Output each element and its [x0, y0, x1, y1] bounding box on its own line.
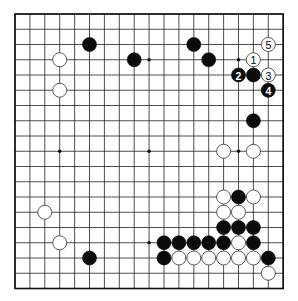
white-stone-icon: [187, 251, 201, 265]
black-stone: [157, 251, 171, 265]
black-stone: [246, 68, 260, 82]
black-stone: [232, 190, 246, 204]
move-number: 4: [265, 85, 271, 97]
black-stone: [217, 236, 231, 250]
white-stone: [217, 205, 231, 219]
black-stone: [172, 236, 186, 250]
black-stone: [232, 221, 246, 235]
black-stone: [187, 236, 201, 250]
black-stone-icon: [246, 114, 260, 128]
go-board-canvas[interactable]: 51234: [0, 0, 298, 301]
black-stone-icon: [246, 221, 260, 235]
black-stone-move-4: 4: [261, 83, 275, 97]
white-stone: [187, 251, 201, 265]
move-number: 3: [265, 70, 271, 82]
white-stone-icon: [217, 190, 231, 204]
black-stone-icon: [83, 251, 97, 265]
black-stone: [83, 251, 97, 265]
white-stone-icon: [232, 205, 246, 219]
black-stone: [202, 53, 216, 67]
white-stone-icon: [53, 236, 67, 250]
white-stone-move-5: 5: [261, 38, 275, 52]
white-stone-icon: [246, 144, 260, 158]
white-stone-icon: [38, 205, 52, 219]
black-stone-icon: [187, 38, 201, 52]
move-number: 5: [265, 39, 271, 51]
star-point-icon: [58, 149, 62, 153]
black-stone-icon: [232, 190, 246, 204]
black-stone-icon: [172, 236, 186, 250]
white-stone: [217, 190, 231, 204]
white-stone: [172, 251, 186, 265]
stones-layer: 51234: [38, 38, 275, 281]
black-stone: [157, 236, 171, 250]
black-stone-icon: [187, 236, 201, 250]
white-stone-move-1: 1: [246, 53, 260, 67]
white-stone-icon: [246, 190, 260, 204]
star-point-icon: [147, 149, 151, 153]
white-stone: [217, 144, 231, 158]
black-stone-icon: [246, 236, 260, 250]
black-stone-icon: [217, 221, 231, 235]
white-stone: [232, 251, 246, 265]
black-stone: [246, 236, 260, 250]
white-stone-icon: [246, 251, 260, 265]
go-board[interactable]: 51234: [0, 0, 298, 301]
white-stone: [261, 266, 275, 280]
black-stone-icon: [232, 221, 246, 235]
white-stone: [202, 251, 216, 265]
star-point-icon: [147, 241, 151, 245]
black-stone-icon: [202, 236, 216, 250]
black-stone-icon: [202, 53, 216, 67]
white-stone: [38, 205, 52, 219]
black-stone: [261, 251, 275, 265]
white-stone: [232, 205, 246, 219]
white-stone-move-3: 3: [261, 68, 275, 82]
black-stone-icon: [261, 251, 275, 265]
star-point-icon: [237, 58, 241, 62]
black-stone-icon: [246, 68, 260, 82]
black-stone: [202, 236, 216, 250]
white-stone-icon: [217, 144, 231, 158]
white-stone: [53, 83, 67, 97]
white-stone-icon: [232, 251, 246, 265]
move-number: 1: [250, 54, 256, 66]
white-stone-icon: [217, 251, 231, 265]
black-stone: [83, 38, 97, 52]
white-stone: [246, 190, 260, 204]
black-stone-icon: [157, 236, 171, 250]
black-stone: [217, 221, 231, 235]
white-stone: [232, 236, 246, 250]
white-stone-icon: [232, 236, 246, 250]
black-stone-move-2: 2: [232, 68, 246, 82]
black-stone: [187, 38, 201, 52]
white-stone: [246, 144, 260, 158]
white-stone-icon: [261, 266, 275, 280]
move-number: 2: [236, 70, 242, 82]
star-point-icon: [237, 149, 241, 153]
white-stone: [246, 251, 260, 265]
black-stone-icon: [83, 38, 97, 52]
black-stone: [246, 221, 260, 235]
white-stone: [53, 53, 67, 67]
black-stone: [127, 53, 141, 67]
black-stone-icon: [127, 53, 141, 67]
white-stone-icon: [217, 205, 231, 219]
black-stone-icon: [217, 236, 231, 250]
white-stone: [53, 236, 67, 250]
white-stone-icon: [172, 251, 186, 265]
star-point-icon: [147, 58, 151, 62]
black-stone-icon: [157, 251, 171, 265]
white-stone: [217, 251, 231, 265]
black-stone: [246, 114, 260, 128]
white-stone-icon: [53, 53, 67, 67]
white-stone-icon: [53, 83, 67, 97]
white-stone-icon: [202, 251, 216, 265]
